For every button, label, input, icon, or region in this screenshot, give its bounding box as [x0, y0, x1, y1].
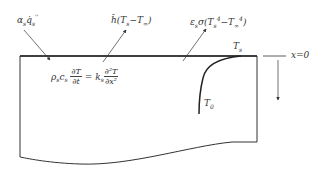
convection-label: h̃(Ts−T∞) [111, 16, 151, 27]
surface-temp-label: Ts [233, 42, 242, 53]
slab-diagram [0, 0, 327, 172]
x-origin-label: x=0 [291, 51, 309, 60]
radiation-label: εsσ(Ts4−T∞4) [190, 16, 246, 29]
time-derivative: ∂T∂t [70, 68, 81, 86]
absorbed-flux-label: αsq̇s'' [17, 14, 38, 27]
convection-arrow [103, 30, 126, 62]
space-second-derivative: ∂²T∂x² [104, 68, 119, 86]
heat-equation: ρscs ∂T∂t = ks∂²T∂x² [51, 68, 118, 86]
initial-temp-label: T0 [204, 99, 214, 110]
